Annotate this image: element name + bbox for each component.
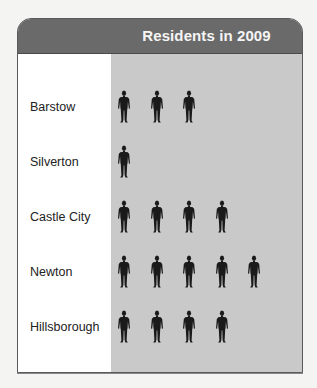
chart-title: Residents in 2009 bbox=[111, 19, 302, 53]
person-icon bbox=[117, 200, 131, 234]
person-icon bbox=[117, 255, 131, 289]
person-icon bbox=[182, 310, 196, 344]
person-icon bbox=[182, 255, 196, 289]
person-icon bbox=[247, 255, 261, 289]
icon-area bbox=[111, 54, 302, 372]
category-label: Castle City bbox=[30, 210, 90, 224]
person-icon bbox=[150, 310, 164, 344]
person-icon bbox=[215, 255, 229, 289]
person-icon bbox=[117, 145, 131, 179]
person-icon bbox=[150, 255, 164, 289]
person-icon bbox=[117, 90, 131, 124]
person-icon bbox=[215, 310, 229, 344]
person-icon bbox=[215, 200, 229, 234]
person-icon bbox=[182, 90, 196, 124]
chart-header: Residents in 2009 bbox=[18, 19, 302, 54]
category-label: Newton bbox=[30, 265, 72, 279]
person-icon bbox=[150, 200, 164, 234]
category-label: Silverton bbox=[30, 155, 79, 169]
person-icon bbox=[182, 200, 196, 234]
category-label: Barstow bbox=[30, 100, 75, 114]
person-icon bbox=[117, 310, 131, 344]
person-icon bbox=[150, 90, 164, 124]
category-label: Hillsborough bbox=[30, 320, 99, 334]
